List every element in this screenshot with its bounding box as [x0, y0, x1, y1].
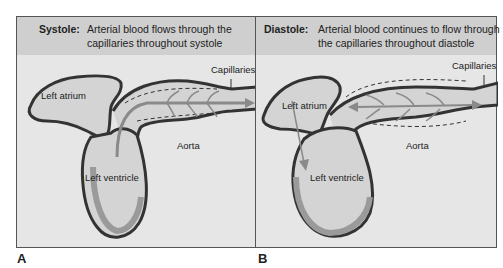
panel-systole: Systole: Arterial blood flows through th… [16, 16, 256, 248]
systole-heart-diagram [17, 17, 257, 249]
label-aorta: Aorta [406, 140, 429, 151]
label-left-ventricle: Left ventricle [310, 172, 364, 183]
label-left-ventricle: Left ventricle [85, 172, 139, 183]
label-capillaries: Capillaries [211, 64, 255, 75]
label-capillaries: Capillaries [452, 60, 496, 71]
diastole-heart-diagram [256, 17, 498, 249]
panel-letter-b: B [258, 251, 267, 266]
label-left-atrium: Left atrium [41, 90, 86, 101]
label-left-atrium: Left atrium [282, 100, 327, 111]
label-aorta: Aorta [177, 140, 200, 151]
panel-letter-a: A [17, 251, 26, 266]
panel-diastole: Diastole: Arterial blood continues to fl… [255, 16, 497, 248]
